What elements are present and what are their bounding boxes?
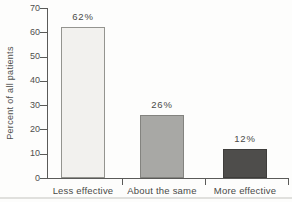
bar [61, 27, 105, 178]
bar [140, 115, 184, 178]
x-axis-line [47, 178, 289, 179]
y-tick-label: 70 [12, 3, 40, 14]
y-tick-mark [40, 8, 47, 9]
y-tick-label: 40 [12, 75, 40, 86]
y-tick-label: 10 [12, 148, 40, 159]
y-tick-label: 60 [12, 27, 40, 38]
y-axis-line [47, 8, 48, 179]
y-tick-mark [40, 105, 47, 106]
bar-value-label: 62% [53, 11, 113, 23]
x-category-label: More effective [200, 185, 290, 197]
y-tick-mark [40, 178, 47, 179]
bar-chart-figure: Percent of all patients 010203040506070 … [0, 0, 292, 202]
y-tick-label: 50 [12, 51, 40, 62]
bar-value-label: 26% [132, 99, 192, 111]
y-tick-label: 20 [12, 124, 40, 135]
scan-edge-artifact [0, 197, 292, 199]
x-category-label: Less effective [38, 185, 128, 197]
y-tick-label: 0 [12, 173, 40, 184]
y-tick-mark [40, 57, 47, 58]
y-tick-mark [40, 154, 47, 155]
bar-value-label: 12% [215, 133, 275, 145]
x-category-label: About the same [117, 185, 207, 197]
y-tick-label: 30 [12, 100, 40, 111]
y-tick-mark [40, 32, 47, 33]
y-tick-mark [40, 81, 47, 82]
bar [223, 149, 267, 178]
y-tick-mark [40, 129, 47, 130]
